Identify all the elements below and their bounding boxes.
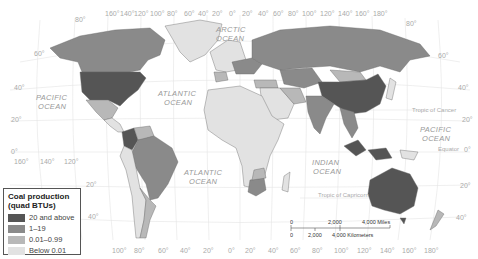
region-zimbabwe	[252, 168, 266, 180]
region-indonesia	[344, 140, 366, 156]
svg-text:120°: 120°	[134, 10, 149, 17]
svg-text:40°: 40°	[88, 213, 99, 220]
svg-text:160°: 160°	[355, 10, 370, 17]
svg-text:OCEAN: OCEAN	[189, 177, 217, 186]
svg-text:100°: 100°	[302, 10, 317, 17]
svg-text:160°: 160°	[105, 10, 120, 17]
region-canada	[50, 28, 165, 72]
region-turkey	[254, 80, 278, 88]
svg-text:20°: 20°	[212, 10, 223, 17]
svg-text:180°: 180°	[424, 247, 439, 254]
svg-text:0°: 0°	[464, 146, 471, 153]
svg-text:20°: 20°	[242, 10, 253, 17]
atlantic-ocean-south-label: ATLANTIC	[183, 168, 222, 177]
equator-label: Equator	[438, 146, 459, 152]
svg-text:4,000 Kilometers: 4,000 Kilometers	[332, 232, 374, 238]
region-central-america	[104, 118, 124, 132]
svg-text:OCEAN: OCEAN	[164, 98, 192, 107]
region-tasmania	[400, 218, 406, 224]
svg-text:80°: 80°	[75, 16, 86, 23]
svg-text:20°: 20°	[203, 247, 214, 254]
svg-text:80°: 80°	[167, 10, 178, 17]
region-mexico	[86, 100, 118, 120]
svg-text:160°: 160°	[402, 247, 417, 254]
svg-text:OCEAN: OCEAN	[38, 102, 66, 111]
svg-text:20°: 20°	[462, 116, 473, 123]
pacific-ocean-west-label: PACIFIC	[36, 93, 67, 102]
svg-text:40°: 40°	[198, 10, 209, 17]
svg-text:80°: 80°	[134, 247, 145, 254]
svg-text:20°: 20°	[11, 116, 22, 123]
svg-text:OCEAN: OCEAN	[422, 134, 450, 143]
svg-text:2,000: 2,000	[308, 232, 322, 238]
tropic-of-cancer-label: Tropic of Cancer	[412, 107, 456, 113]
legend-swatch	[8, 236, 25, 244]
svg-text:0°: 0°	[229, 10, 236, 17]
region-new-guinea	[400, 150, 418, 160]
legend-item-1-19: 1–19	[8, 223, 76, 234]
svg-text:100°: 100°	[112, 247, 127, 254]
svg-text:4,000 Miles: 4,000 Miles	[362, 219, 390, 225]
pacific-ocean-east-label: PACIFIC	[420, 125, 451, 134]
legend-item-0-01-0-99: 0.01–0.99	[8, 234, 76, 245]
svg-text:140°: 140°	[380, 247, 395, 254]
scale-bar: 0 2,000 4,000 Miles 0 2,000 4,000 Kilome…	[290, 218, 400, 240]
svg-text:20°: 20°	[460, 182, 471, 189]
svg-text:120°: 120°	[320, 10, 335, 17]
svg-text:80°: 80°	[288, 10, 299, 17]
svg-text:0°: 0°	[228, 247, 235, 254]
svg-text:180°: 180°	[373, 10, 388, 17]
svg-text:40°: 40°	[14, 84, 25, 91]
svg-text:80°: 80°	[406, 20, 417, 27]
svg-text:2,000: 2,000	[328, 219, 342, 225]
region-spain	[214, 72, 228, 82]
region-new-zealand	[430, 210, 444, 230]
tropic-of-capricorn-label: Tropic of Capricorn	[318, 192, 369, 198]
svg-text:100°: 100°	[150, 10, 165, 17]
top-longitude-labels: 160° 140° 120° 100° 80° 60° 40° 20° 0° 2…	[105, 10, 388, 17]
svg-text:0: 0	[290, 219, 293, 225]
svg-text:140°: 140°	[338, 10, 353, 17]
svg-text:60°: 60°	[184, 10, 195, 17]
svg-text:0: 0	[290, 232, 293, 238]
svg-text:140°: 140°	[40, 158, 55, 165]
svg-text:60°: 60°	[158, 247, 169, 254]
svg-text:40°: 40°	[458, 84, 469, 91]
svg-text:40°: 40°	[456, 214, 467, 221]
region-south-africa	[248, 178, 266, 196]
svg-text:140°: 140°	[120, 10, 135, 17]
legend-swatch	[8, 214, 25, 222]
svg-text:OCEAN: OCEAN	[313, 167, 341, 176]
region-madagascar	[282, 172, 290, 192]
svg-text:0°: 0°	[11, 148, 18, 155]
legend-swatch	[8, 225, 25, 233]
region-kazakhstan	[280, 68, 322, 88]
region-india	[306, 96, 334, 134]
svg-text:40°: 40°	[268, 247, 279, 254]
svg-text:60°: 60°	[34, 50, 45, 57]
svg-text:20°: 20°	[86, 181, 97, 188]
svg-text:20°: 20°	[245, 247, 256, 254]
atlantic-ocean-north-label: ATLANTIC	[157, 89, 196, 98]
region-japan	[386, 78, 396, 100]
svg-text:80°: 80°	[312, 247, 323, 254]
legend-item-20-and-above: 20 and above	[8, 212, 76, 223]
svg-text:40°: 40°	[180, 247, 191, 254]
region-indonesia-east	[368, 148, 392, 160]
svg-text:OCEAN: OCEAN	[216, 34, 244, 43]
svg-text:160°: 160°	[14, 158, 29, 165]
svg-text:60°: 60°	[438, 52, 449, 59]
arctic-ocean-label: ARCTIC	[215, 25, 246, 34]
legend-swatch	[8, 247, 25, 255]
legend-title: Coal production (quad BTUs)	[8, 192, 76, 210]
legend: Coal production (quad BTUs) 20 and above…	[3, 188, 81, 255]
svg-text:60°: 60°	[273, 10, 284, 17]
region-australia	[368, 168, 418, 214]
region-russia	[252, 26, 430, 72]
svg-text:40°: 40°	[258, 10, 269, 17]
svg-text:100°: 100°	[334, 247, 349, 254]
legend-item-below-0-01: Below 0.01	[8, 245, 76, 256]
svg-text:120°: 120°	[357, 247, 372, 254]
indian-ocean-label: INDIAN	[312, 158, 340, 167]
svg-text:120°: 120°	[64, 158, 79, 165]
